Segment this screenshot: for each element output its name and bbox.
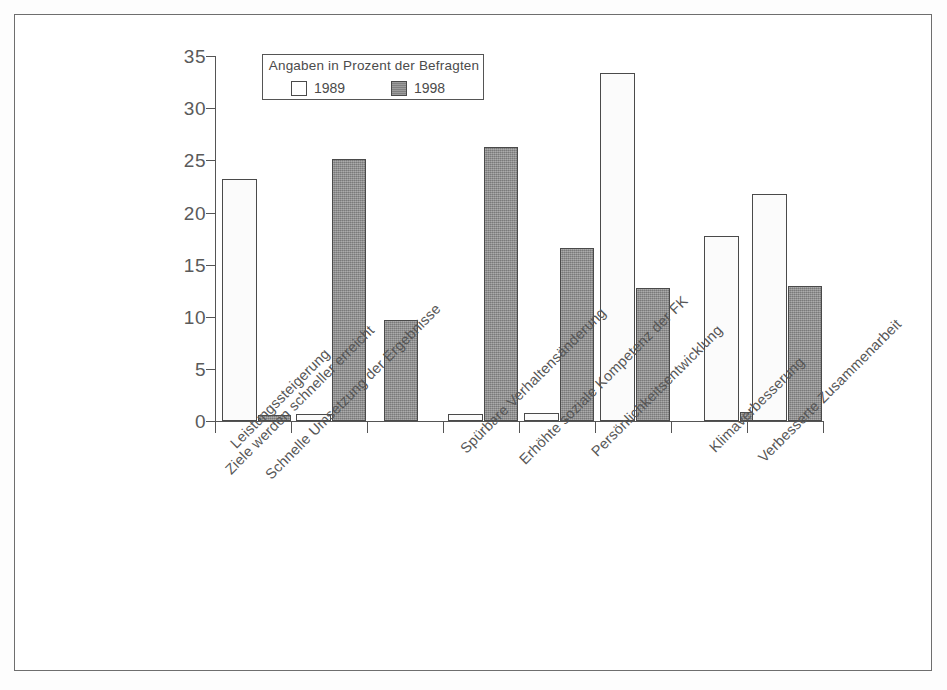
x-tick-0: [215, 422, 216, 433]
chart-legend: Angaben in Prozent der Befragten 1989 19…: [262, 54, 484, 100]
y-axis-label-20: 20: [162, 203, 206, 225]
legend-title: Angaben in Prozent der Befragten: [263, 58, 485, 73]
bar-leistungssteigerung-1989: [222, 179, 257, 421]
y-axis-label-10: 10: [162, 307, 206, 329]
y-tick-25: [206, 160, 215, 161]
y-tick-10: [206, 317, 215, 318]
legend-label-1998: 1998: [414, 80, 445, 96]
y-axis-label-30: 30: [162, 98, 206, 120]
y-tick-35: [206, 56, 215, 57]
y-tick-30: [206, 108, 215, 109]
x-tick-6: [671, 422, 672, 433]
y-tick-20: [206, 213, 215, 214]
legend-swatch-1989-icon: [291, 81, 307, 96]
chart-page: 35 30 25 20 15 10 5 0: [0, 0, 947, 690]
x-tick-4: [519, 422, 520, 433]
bar-spuerbare-verhaltensaenderung-1998: [484, 147, 518, 421]
y-axis-label-25: 25: [162, 150, 206, 172]
y-axis-line: [215, 56, 216, 422]
x-tick-8: [823, 422, 824, 433]
x-tick-3: [443, 422, 444, 433]
legend-swatch-1998-icon: [391, 81, 407, 96]
legend-label-1989: 1989: [314, 80, 345, 96]
bar-spuerbare-verhaltensaenderung-1989: [448, 414, 483, 421]
y-axis-label-5: 5: [162, 359, 206, 381]
y-tick-15: [206, 265, 215, 266]
x-tick-1: [291, 422, 292, 433]
x-tick-5: [595, 422, 596, 433]
x-tick-2: [367, 422, 368, 433]
y-tick-0: [206, 421, 215, 422]
legend-entry-1989: 1989: [291, 79, 345, 97]
y-axis-label-0: 0: [162, 411, 206, 433]
bar-chart-plot-area: 35 30 25 20 15 10 5 0: [0, 0, 947, 690]
y-tick-5: [206, 369, 215, 370]
y-axis-label-15: 15: [162, 255, 206, 277]
y-axis-label-35: 35: [162, 46, 206, 68]
legend-entry-1998: 1998: [391, 79, 445, 97]
